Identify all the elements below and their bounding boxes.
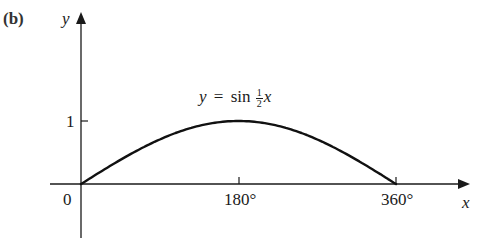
- origin-label: 0: [63, 191, 72, 208]
- x-tick-label-360: 360°: [381, 191, 413, 208]
- equation-func: sin: [231, 87, 251, 106]
- equation-lhs: y: [199, 87, 207, 106]
- y-axis-label: y: [62, 10, 70, 27]
- sine-curve: [81, 121, 396, 184]
- y-tick-label-1: 1: [66, 113, 75, 130]
- fraction-denominator: 2: [256, 99, 263, 109]
- curve-equation: y = sin 1 2 x: [199, 88, 271, 109]
- x-axis-label: x: [462, 194, 470, 211]
- equation-var: x: [264, 87, 272, 106]
- equation-equals: =: [214, 87, 224, 106]
- x-tick-label-180: 180°: [224, 191, 256, 208]
- equation-fraction: 1 2: [256, 88, 263, 109]
- x-axis-arrow-icon: [458, 179, 470, 189]
- y-axis-arrow-icon: [76, 12, 86, 24]
